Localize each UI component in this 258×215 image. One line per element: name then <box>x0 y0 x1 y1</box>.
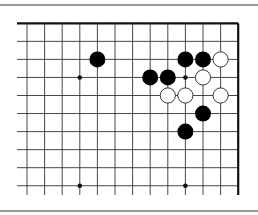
black-stone <box>89 51 105 67</box>
white-stone <box>213 88 228 103</box>
white-stone <box>213 52 228 67</box>
black-stone <box>195 51 211 67</box>
star-point <box>78 75 83 80</box>
star-point <box>183 75 188 80</box>
go-board <box>0 0 258 215</box>
bottom-divider-rule <box>0 210 258 212</box>
star-point <box>78 183 83 188</box>
black-stone <box>160 69 176 85</box>
black-stone <box>177 51 193 67</box>
white-stone <box>178 88 193 103</box>
black-stone <box>177 124 193 140</box>
black-stone <box>195 106 211 122</box>
white-stone <box>160 88 175 103</box>
star-point <box>183 183 188 188</box>
white-stone <box>195 70 210 85</box>
black-stone <box>142 69 158 85</box>
